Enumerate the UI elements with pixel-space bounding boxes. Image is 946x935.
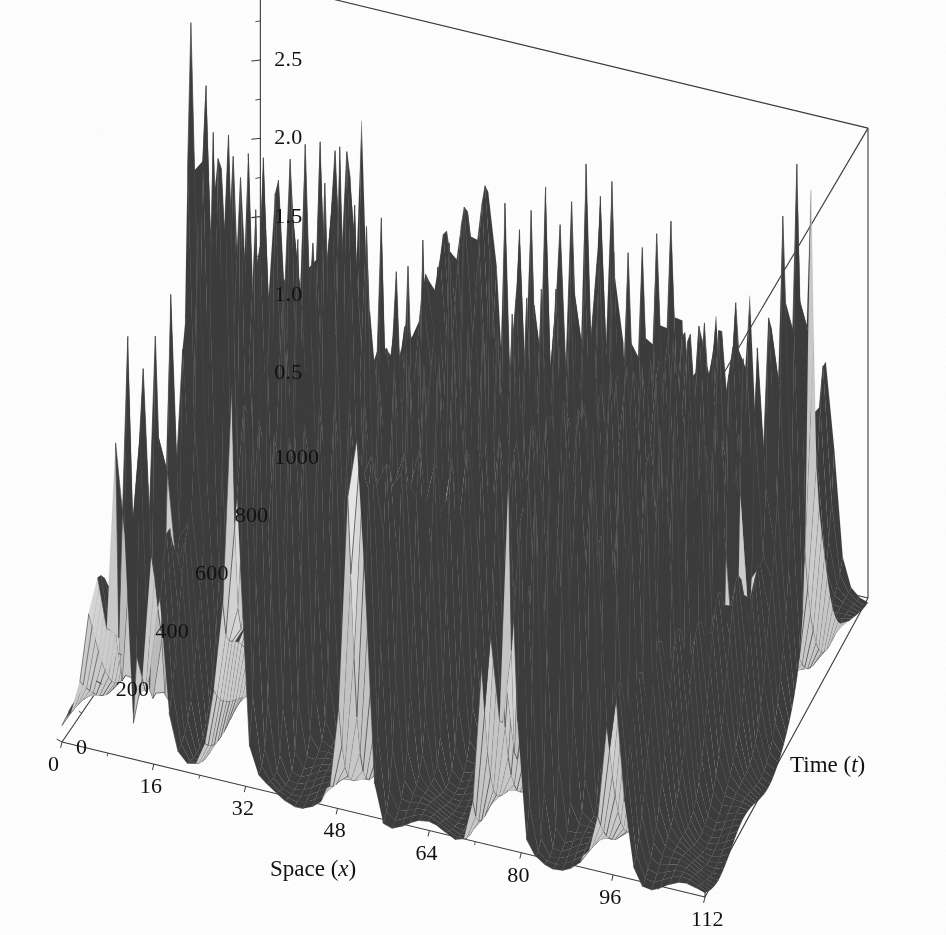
- y-axis-title: Time (t): [790, 752, 865, 778]
- z-axis-tick-label: 2.0: [274, 124, 302, 150]
- x-axis-tick-label: 80: [507, 862, 529, 888]
- z-axis-tick-label: 1.0: [274, 281, 302, 307]
- y-axis-tick-label: 400: [155, 618, 189, 644]
- x-axis-title: Space (x): [270, 856, 356, 882]
- x-axis-tick-label: 96: [599, 884, 621, 910]
- y-axis-tick-label: 600: [195, 560, 229, 586]
- x-axis-tick-label: 112: [691, 906, 724, 932]
- y-axis-tick-label: 0: [76, 734, 87, 760]
- x-axis-tick-label: 64: [415, 840, 437, 866]
- z-axis-tick-label: 2.5: [274, 46, 302, 72]
- surface-plot-figure: 0.51.01.52.02.53.00163248648096112020040…: [0, 0, 946, 935]
- z-axis-tick-label: 1.5: [274, 203, 302, 229]
- y-axis-tick-label: 800: [235, 502, 269, 528]
- y-axis-tick-label: 1000: [274, 444, 319, 470]
- x-axis-tick-label: 32: [232, 795, 254, 821]
- x-axis-tick-label: 16: [140, 773, 162, 799]
- z-axis-tick-label: 0.5: [274, 359, 302, 385]
- x-axis-tick-label: 0: [48, 751, 59, 777]
- x-axis-tick-label: 48: [324, 817, 346, 843]
- mesh-surface: [62, 23, 868, 893]
- y-axis-tick-label: 200: [116, 676, 150, 702]
